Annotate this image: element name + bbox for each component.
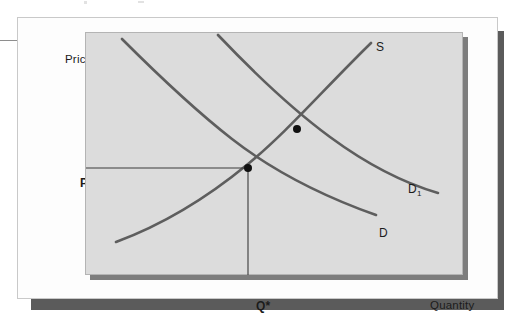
demand-shifted-curve-label: D [408, 182, 417, 196]
equilibrium-point-original [244, 164, 252, 172]
plot-panel: S D 1 D [85, 32, 463, 275]
scan-artifact-strip [0, 0, 518, 6]
demand-shifted-curve-label-subscript: 1 [417, 189, 422, 198]
demand-curve-label: D [379, 226, 388, 240]
x-axis-tick-label-qstar: Q* [256, 299, 270, 313]
equilibrium-point-new [293, 125, 301, 133]
supply-curve [116, 43, 371, 242]
x-axis-label: Quantity [430, 299, 474, 311]
supply-curve-label: S [376, 40, 384, 54]
